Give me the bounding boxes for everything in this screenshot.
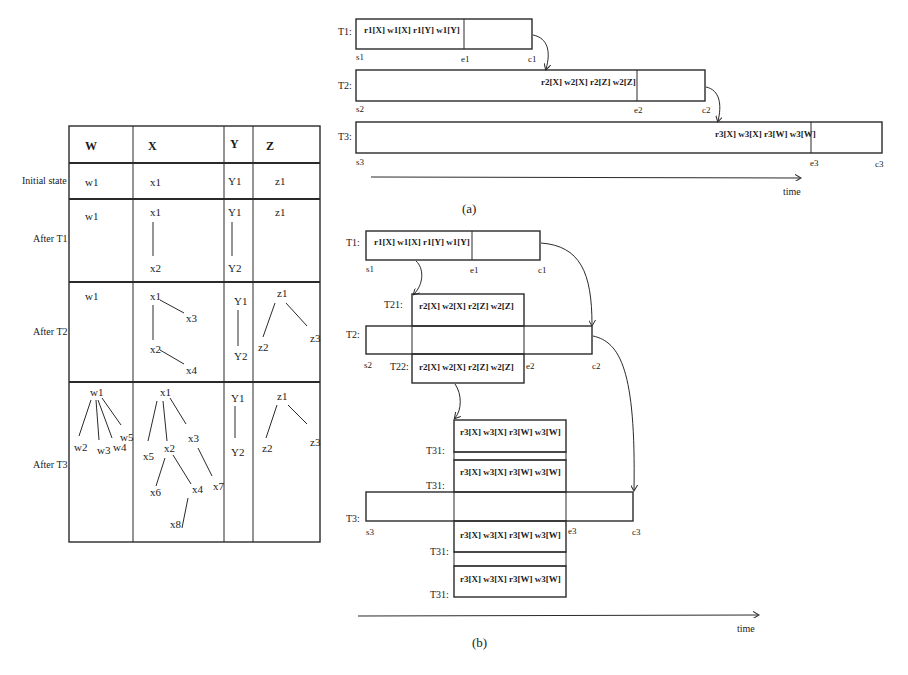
version-y2: Y2 — [231, 446, 244, 458]
t3-commit: c3 — [632, 527, 641, 537]
version-x8: x8 — [170, 518, 182, 530]
t3-start: s3 — [366, 527, 375, 537]
version-table: W X Y Z Initial state After T1 After T2 … — [22, 126, 321, 542]
t31-label: T31: — [426, 445, 445, 456]
version-z1: z1 — [275, 175, 285, 187]
version-z3: z3 — [310, 332, 321, 344]
t3-bar — [366, 492, 633, 521]
t3-commit: c3 — [875, 159, 884, 169]
version-x1: x1 — [150, 290, 161, 302]
version-z2: z2 — [258, 341, 268, 353]
t3-label: T3: — [346, 513, 360, 524]
t31-label: T31: — [430, 589, 449, 600]
version-w1: w1 — [85, 290, 98, 302]
t1-end: e1 — [461, 54, 470, 64]
version-y1: Y1 — [228, 206, 241, 218]
column-header-x: X — [148, 139, 157, 153]
t2-label: T2: — [338, 80, 352, 91]
commit-arrow — [541, 243, 592, 325]
t31-operations: r3[X] w3[X] r3[W] w3[W] — [460, 530, 561, 540]
version-w1: w1 — [85, 210, 98, 222]
t1-start: s1 — [366, 264, 374, 274]
version-w1: w1 — [90, 386, 103, 398]
t31-operations: r3[X] w3[X] r3[W] w3[W] — [460, 427, 561, 437]
t2-bar — [366, 326, 592, 354]
t2-operations: r2[X] w2[X] r2[Z] w2[Z] — [541, 77, 636, 87]
spawn-arrow — [455, 384, 460, 418]
table-frame — [69, 126, 320, 542]
t1-operations: r1[X] w1[X] r1[Y] w1[Y] — [364, 25, 460, 35]
t2-end: e2 — [634, 105, 643, 115]
time-label: time — [783, 186, 801, 197]
row-label-after-t1: After T1 — [33, 233, 68, 244]
version-w1: w1 — [85, 176, 98, 188]
version-z3: z3 — [310, 436, 321, 448]
t2-end: e2 — [526, 361, 535, 371]
version-x5: x5 — [143, 450, 155, 462]
version-y1: Y1 — [231, 392, 244, 404]
t2-commit: c2 — [702, 105, 711, 115]
t3-operations: r3[X] w3[X] r3[W] w3[W] — [715, 129, 816, 139]
t2-bar — [356, 70, 705, 101]
column-header-y: Y — [230, 137, 239, 151]
version-y2: Y2 — [234, 350, 247, 362]
version-y1: Y1 — [234, 295, 247, 307]
t1-start: s1 — [356, 52, 364, 62]
diagram-a: T1: r1[X] w1[X] r1[Y] w1[Y] s1 e1 c1 T2:… — [338, 19, 884, 216]
diagram-b: T1: r1[X] w1[X] r1[Y] w1[Y] s1 e1 c1 T21… — [346, 231, 758, 650]
version-y2: Y2 — [228, 262, 241, 274]
commit-arrow — [706, 87, 720, 121]
version-w5: w5 — [120, 431, 134, 443]
t1-commit: c1 — [528, 54, 537, 64]
spawn-arrow — [414, 261, 422, 294]
t1-label: T1: — [338, 26, 352, 37]
row-label-after-t3: After T3 — [33, 459, 68, 470]
t1-end: e1 — [470, 265, 479, 275]
t22-operations: r2[X] w2[X] r2[Z] w2[Z] — [419, 362, 514, 372]
t2-label: T2: — [346, 329, 360, 340]
version-x7: x7 — [213, 480, 225, 492]
version-x6: x6 — [150, 486, 162, 498]
version-z1: z1 — [277, 390, 287, 402]
version-x2: x2 — [150, 343, 161, 355]
version-x2: x2 — [164, 442, 175, 454]
version-x4: x4 — [192, 483, 204, 495]
t2-commit: c2 — [592, 361, 601, 371]
t31-operations: r3[X] w3[X] r3[W] w3[W] — [460, 574, 561, 584]
version-z1: z1 — [275, 206, 285, 218]
t31-label: T31: — [430, 546, 449, 557]
t3-end: e3 — [568, 526, 577, 536]
version-y1: Y1 — [228, 175, 241, 187]
column-header-z: Z — [266, 139, 274, 153]
version-x3: x3 — [186, 312, 198, 324]
time-axis — [358, 615, 758, 616]
t3-end: e3 — [810, 158, 819, 168]
t31-operations: r3[X] w3[X] r3[W] w3[W] — [460, 467, 561, 477]
row-label-after-t2: After T2 — [33, 326, 68, 337]
row-label-initial: Initial state — [22, 175, 67, 186]
column-header-w: W — [85, 139, 97, 153]
t2-start: s2 — [356, 104, 364, 114]
t1-operations: r1[X] w1[X] r1[Y] w1[Y] — [374, 237, 470, 247]
commit-arrow — [593, 336, 634, 490]
version-w2: w2 — [74, 441, 87, 453]
version-z1: z1 — [277, 287, 287, 299]
t2-start: s2 — [364, 360, 372, 370]
version-x2: x2 — [150, 262, 161, 274]
caption-a: (a) — [462, 201, 476, 216]
t21-label: T21: — [384, 299, 403, 310]
version-x1: x1 — [150, 176, 161, 188]
version-w3: w3 — [97, 444, 111, 456]
version-x1: x1 — [150, 206, 161, 218]
version-x1: x1 — [160, 386, 171, 398]
t21-operations: r2[X] w2[X] r2[Z] w2[Z] — [419, 301, 514, 311]
figure: W X Y Z Initial state After T1 After T2 … — [0, 0, 908, 675]
time-axis — [371, 177, 800, 178]
caption-b: (b) — [472, 635, 487, 650]
version-z2: z2 — [262, 442, 272, 454]
t31-label: T31: — [426, 480, 445, 491]
t1-commit: c1 — [538, 265, 547, 275]
version-x4: x4 — [186, 364, 198, 376]
version-x3: x3 — [188, 432, 200, 444]
t3-label: T3: — [338, 131, 352, 142]
